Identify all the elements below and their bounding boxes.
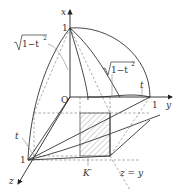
sqrt-label-left: 1−t 2 — [14, 34, 47, 50]
t-label-right: t — [140, 80, 144, 90]
sqrt-label-right: 1−t 2 — [103, 60, 135, 75]
svg-text:1−t: 1−t — [111, 65, 128, 75]
z-tick-1: 1 — [20, 155, 26, 165]
svg-text:1−t: 1−t — [22, 39, 39, 49]
section-k-prime — [80, 113, 110, 156]
plane-label: z = y — [119, 168, 144, 178]
y-axis-label: y — [165, 100, 172, 110]
svg-text:2: 2 — [43, 34, 47, 41]
axes — [18, 10, 172, 184]
section-label: K′ — [82, 168, 92, 178]
svg-text:2: 2 — [131, 60, 135, 67]
t-label-left: t — [15, 131, 19, 141]
z-axis-label: z — [8, 176, 14, 186]
x-tick-1: 1 — [62, 23, 68, 33]
origin-label: O — [61, 95, 68, 105]
diagram-canvas: x 1 O 1 y 1 z 1−t 2 1−t 2 t t K′ z = y — [0, 0, 180, 193]
z-axis — [18, 97, 70, 184]
y-tick-1: 1 — [152, 100, 158, 110]
x-axis-label: x — [61, 7, 66, 17]
